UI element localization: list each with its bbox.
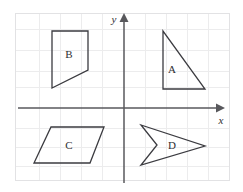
- shape-a-outline: [163, 31, 205, 89]
- grid-horizontal-lines: [16, 30, 229, 167]
- x-axis-label: x: [218, 114, 224, 126]
- shape-a-label: A: [168, 63, 176, 75]
- shape-a: A: [163, 31, 205, 89]
- coordinate-plane-svg: y x A B C D: [0, 0, 243, 192]
- y-axis-label: y: [111, 13, 117, 25]
- x-axis-arrowhead-icon: [216, 104, 225, 113]
- shape-c: C: [34, 127, 104, 163]
- y-axis: [120, 13, 129, 183]
- plot-frame: [16, 14, 230, 181]
- shape-d-label: D: [168, 139, 176, 151]
- y-axis-arrowhead-icon: [120, 13, 129, 22]
- coordinate-plane-figure: y x A B C D: [0, 0, 243, 192]
- x-axis: [18, 104, 225, 113]
- shape-b: B: [52, 31, 88, 88]
- shape-c-label: C: [65, 139, 72, 151]
- shape-b-label: B: [65, 48, 72, 60]
- shape-d: D: [141, 125, 205, 165]
